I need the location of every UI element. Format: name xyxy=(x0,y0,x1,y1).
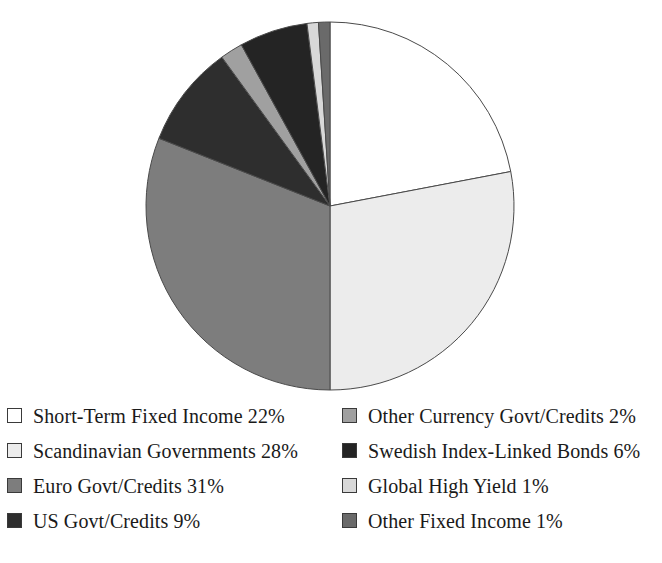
legend-label-other-fixed-income: Other Fixed Income 1% xyxy=(368,510,563,532)
legend-label-scandinavian-governments: Scandinavian Governments 28% xyxy=(33,440,298,462)
legend-swatch-short-term-fixed-income xyxy=(7,408,22,423)
legend-label-short-term-fixed-income: Short-Term Fixed Income 22% xyxy=(33,405,285,427)
legend-item[interactable]: Euro Govt/Credits 31% xyxy=(7,468,298,503)
legend-swatch-euro-govt-credits xyxy=(7,478,22,493)
pie-chart-svg: Short-Term Fixed Income 22%Scandinavian … xyxy=(0,0,662,400)
pie-slice[interactable]: Scandinavian Governments 28% xyxy=(330,172,514,390)
legend-item[interactable]: Other Currency Govt/Credits 2% xyxy=(342,398,640,433)
legend-swatch-other-fixed-income xyxy=(342,513,357,528)
pie-chart-area: Short-Term Fixed Income 22%Scandinavian … xyxy=(0,0,662,400)
legend-column-left: Short-Term Fixed Income 22% Scandinavian… xyxy=(7,398,298,538)
legend-item[interactable]: Scandinavian Governments 28% xyxy=(7,433,298,468)
legend-item[interactable]: Other Fixed Income 1% xyxy=(342,503,640,538)
legend-swatch-swedish-index-linked-bonds xyxy=(342,443,357,458)
legend-item[interactable]: Global High Yield 1% xyxy=(342,468,640,503)
legend-item[interactable]: Swedish Index-Linked Bonds 6% xyxy=(342,433,640,468)
pie-slices-group: Short-Term Fixed Income 22%Scandinavian … xyxy=(146,22,514,390)
legend-swatch-global-high-yield xyxy=(342,478,357,493)
legend-item[interactable]: Short-Term Fixed Income 22% xyxy=(7,398,298,433)
legend-swatch-us-govt-credits xyxy=(7,513,22,528)
legend-label-global-high-yield: Global High Yield 1% xyxy=(368,475,549,497)
chart-legend: Short-Term Fixed Income 22% Scandinavian… xyxy=(0,398,662,563)
legend-label-us-govt-credits: US Govt/Credits 9% xyxy=(33,510,200,532)
legend-item[interactable]: US Govt/Credits 9% xyxy=(7,503,298,538)
legend-swatch-scandinavian-governments xyxy=(7,443,22,458)
legend-label-euro-govt-credits: Euro Govt/Credits 31% xyxy=(33,475,224,497)
legend-label-other-currency-govt-credits: Other Currency Govt/Credits 2% xyxy=(368,405,636,427)
legend-swatch-other-currency-govt-credits xyxy=(342,408,357,423)
legend-column-right: Other Currency Govt/Credits 2% Swedish I… xyxy=(342,398,640,538)
legend-label-swedish-index-linked-bonds: Swedish Index-Linked Bonds 6% xyxy=(368,440,640,462)
